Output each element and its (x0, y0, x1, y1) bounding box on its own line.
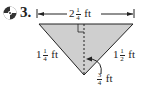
arrowhead-right (127, 12, 133, 16)
arrowhead-left (38, 12, 44, 16)
base-label: 214 ft (69, 7, 91, 22)
height-label: 34 ft (96, 72, 112, 87)
right-side-label: 112 ft (113, 48, 135, 63)
left-side-label: 114 ft (36, 48, 58, 63)
